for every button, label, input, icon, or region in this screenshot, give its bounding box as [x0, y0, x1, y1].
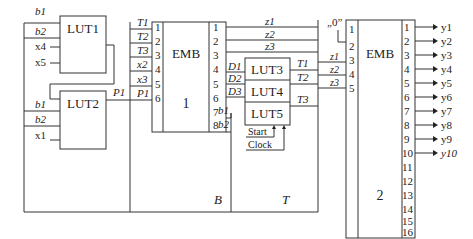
d2-label: D2 [227, 72, 242, 84]
emb1-right-pin: 4 [213, 63, 219, 75]
lut2-output-p1: P1 [112, 86, 125, 98]
emb1-number: 1 [183, 96, 190, 111]
emb2-right-pin: 4 [404, 63, 410, 75]
d1-label: D1 [227, 60, 241, 72]
clock-label: Clock [248, 139, 272, 150]
lut3-label: LUT3 [251, 62, 283, 77]
lut2-input-x1: x1 [35, 129, 46, 141]
output-y7: y7 [441, 105, 453, 117]
lut1-input-x4: x4 [35, 40, 47, 52]
emb1-out-b2: b2 [218, 118, 230, 130]
emb2-right-pin: 11 [402, 161, 413, 173]
emb2-block: EMB 2 „0” z1 z2 z3 1 2 3 4 5 [318, 16, 415, 238]
t2-label: T2 [297, 71, 309, 83]
lut1-input-x5: x5 [35, 56, 47, 68]
lut345-block: LUT3 LUT4 LUT5 T1 T2 T3 Start Clock [245, 57, 318, 150]
z-bus: z1 z2 z3 [226, 15, 318, 52]
emb2-left-pin: 1 [349, 23, 355, 35]
output-y5: y5 [441, 77, 453, 89]
output-y3: y3 [441, 49, 453, 61]
emb1-left-pin: 4 [155, 63, 161, 75]
emb1-left-signal: T2 [137, 30, 149, 42]
emb2-right-pin: 10 [402, 147, 414, 159]
d3-label: D3 [227, 85, 242, 97]
emb1-right-pin: 2 [213, 35, 219, 47]
d-lines: D1 D2 D3 [226, 60, 245, 97]
lut5-label: LUT5 [251, 106, 283, 121]
lut2-label: LUT2 [67, 96, 99, 111]
emb2-in-z3: z3 [329, 77, 339, 88]
emb1-block: EMB 1 1 2 3 4 5 6 T1 T2 T3 x2 x3 P1 1 2 … [130, 16, 231, 132]
start-arrow-icon [272, 125, 276, 129]
emb1-left-pin: 5 [155, 78, 161, 90]
output-y8: y8 [441, 119, 453, 131]
emb1-left-signal: T3 [137, 44, 149, 56]
output-y1: y1 [441, 21, 452, 33]
emb1-label: EMB [172, 46, 201, 61]
emb1-left-pin: 6 [155, 92, 161, 104]
emb1-left-signal: P1 [136, 87, 149, 99]
lut2-input-b2: b2 [35, 113, 47, 125]
emb2-left-pin: 2 [349, 40, 355, 52]
t1-label: T1 [297, 57, 309, 69]
emb1-right-pin: 6 [213, 92, 219, 104]
emb2-right-pin: 14 [402, 203, 414, 215]
emb1-right-pin: 3 [213, 49, 219, 61]
emb2-right-pin: 3 [404, 49, 410, 61]
output-y6: y6 [441, 91, 453, 103]
emb2-right-pin: 8 [404, 119, 410, 131]
emb2-right-pin: 5 [404, 77, 410, 89]
t3-label: T3 [297, 93, 309, 105]
emb2-right-pin: 16 [402, 226, 414, 238]
start-label: Start [248, 126, 267, 137]
emb2-right-pin: 13 [402, 189, 414, 201]
lut1-input-b2: b2 [35, 25, 47, 37]
emb1-left-signal: x2 [136, 58, 148, 70]
emb1-left-signal: x3 [136, 73, 148, 85]
clock-arrow-icon [282, 125, 286, 129]
emb1-out-b1: b1 [218, 104, 229, 116]
region-b-label: B [214, 192, 222, 207]
constant-zero-label: „0” [327, 16, 342, 28]
emb2-right-pin: 1 [404, 21, 410, 33]
bus-z3-label: z3 [264, 40, 275, 52]
emb1-left-pin: 1 [155, 21, 161, 33]
emb2-left-pin: 4 [349, 68, 355, 80]
output-y10: y10 [440, 147, 457, 159]
emb2-right-pin: 2 [404, 35, 410, 47]
lut1-block: LUT1 b1 b2 x4 x5 [35, 5, 106, 73]
emb2-label: EMB [366, 46, 395, 61]
output-arrows [415, 24, 438, 156]
lut4-label: LUT4 [251, 84, 283, 99]
emb1-left-pin: 2 [155, 35, 161, 47]
bus-z2-label: z2 [264, 28, 275, 40]
lut1-input-b1: b1 [35, 5, 46, 17]
emb1-left-signal: T1 [137, 16, 149, 28]
lut1-label: LUT1 [67, 21, 99, 36]
emb1-right-pin: 5 [213, 78, 219, 90]
lut2-block: LUT2 b1 b2 x1 P1 [35, 86, 125, 149]
emb2-number: 2 [377, 188, 384, 203]
emb2-in-z1: z1 [329, 51, 339, 62]
output-y9: y9 [441, 133, 453, 145]
emb2-left-pin: 3 [349, 54, 355, 66]
emb2-right-pin: 6 [404, 91, 410, 103]
emb1-left-pin: 3 [155, 49, 161, 61]
emb1-right-pin: 1 [213, 21, 219, 33]
circuit-diagram: LUT1 b1 b2 x4 x5 LUT2 b1 b2 x1 P1 EMB 1 … [0, 0, 473, 239]
output-y4: y4 [441, 63, 453, 75]
output-y2: y2 [441, 35, 452, 47]
emb2-left-pin: 5 [349, 82, 355, 94]
emb2-right-pin: 12 [402, 175, 413, 187]
region-t-label: T [282, 192, 290, 207]
emb2-in-z2: z2 [329, 64, 339, 75]
bus-z1-label: z1 [264, 15, 275, 27]
emb2-right-pin: 7 [404, 105, 410, 117]
emb2-right-pin: 9 [404, 133, 410, 145]
lut2-input-b1: b1 [35, 98, 46, 110]
